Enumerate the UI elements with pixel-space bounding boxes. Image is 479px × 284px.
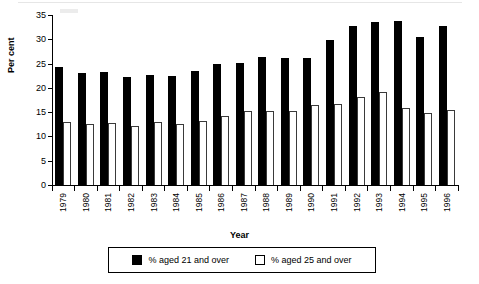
x-tick-label-1980: 1980 bbox=[81, 193, 90, 212]
y-tick-label-35: 35 bbox=[36, 11, 46, 20]
y-tick-label-15: 15 bbox=[36, 108, 46, 117]
bar-1996-series-0 bbox=[439, 26, 447, 185]
legend-label-1: % aged 25 and over bbox=[271, 256, 352, 265]
bar-group bbox=[97, 15, 120, 185]
bar-group bbox=[120, 15, 143, 185]
x-label-cell-1990: 1990 bbox=[300, 193, 323, 227]
bar-group bbox=[413, 15, 436, 185]
x-label-cell-1983: 1983 bbox=[142, 193, 165, 227]
x-label-cell-1985: 1985 bbox=[187, 193, 210, 227]
bar-1984-series-0 bbox=[168, 76, 176, 185]
bar-group bbox=[233, 15, 256, 185]
bar-1979-series-0 bbox=[55, 67, 63, 185]
bar-1981-series-1 bbox=[108, 123, 116, 185]
bar-group bbox=[75, 15, 98, 185]
x-tick-label-1987: 1987 bbox=[239, 193, 248, 212]
bar-1991-series-1 bbox=[334, 104, 342, 185]
x-label-cell-1979: 1979 bbox=[52, 193, 75, 227]
bar-1988-series-1 bbox=[266, 111, 274, 185]
bar-group bbox=[278, 15, 301, 185]
x-tick-label-1983: 1983 bbox=[149, 193, 158, 212]
x-tick-1983 bbox=[142, 186, 165, 192]
x-label-cell-1996: 1996 bbox=[436, 193, 459, 227]
y-tick-label-30: 30 bbox=[36, 35, 46, 44]
bar-1982-series-1 bbox=[131, 126, 139, 185]
bar-1996-series-1 bbox=[447, 110, 455, 185]
cropped-top-artifact bbox=[60, 9, 78, 13]
bar-1992-series-0 bbox=[349, 26, 357, 185]
x-tick-1990 bbox=[300, 186, 323, 192]
x-label-cell-1992: 1992 bbox=[345, 193, 368, 227]
x-label-cell-1986: 1986 bbox=[210, 193, 233, 227]
bar-group bbox=[142, 15, 165, 185]
x-tick-label-1982: 1982 bbox=[126, 193, 135, 212]
x-tick-1991 bbox=[323, 186, 346, 192]
x-tick-1992 bbox=[345, 186, 368, 192]
bar-1983-series-1 bbox=[154, 122, 162, 185]
filled-black-square-icon bbox=[132, 255, 142, 265]
bar-1992-series-1 bbox=[357, 97, 365, 185]
y-tick-label-5: 5 bbox=[41, 156, 46, 165]
bar-group bbox=[187, 15, 210, 185]
bar-group bbox=[52, 15, 75, 185]
legend-item-0: % aged 21 and over bbox=[132, 255, 229, 265]
y-tick-label-20: 20 bbox=[36, 83, 46, 92]
x-tick-1995 bbox=[413, 186, 436, 192]
x-tick-1985 bbox=[187, 186, 210, 192]
x-tick-1984 bbox=[165, 186, 188, 192]
x-tick-1986 bbox=[210, 186, 233, 192]
bar-series-container bbox=[52, 15, 458, 185]
bar-1986-series-0 bbox=[213, 64, 221, 185]
bar-1988-series-0 bbox=[258, 57, 266, 185]
bar-1982-series-0 bbox=[123, 77, 131, 185]
bar-group bbox=[323, 15, 346, 185]
bar-group bbox=[368, 15, 391, 185]
x-tick-label-1995: 1995 bbox=[420, 193, 429, 212]
x-label-cell-1988: 1988 bbox=[255, 193, 278, 227]
open-white-square-icon bbox=[255, 255, 265, 265]
x-tick-label-1994: 1994 bbox=[397, 193, 406, 212]
x-tick-label-1991: 1991 bbox=[330, 193, 339, 212]
bar-1995-series-1 bbox=[424, 113, 432, 185]
x-label-cell-1980: 1980 bbox=[75, 193, 98, 227]
x-label-cell-1981: 1981 bbox=[97, 193, 120, 227]
bar-1993-series-0 bbox=[371, 22, 379, 185]
y-axis-title: Per cent bbox=[6, 37, 16, 73]
bar-group bbox=[210, 15, 233, 185]
x-tick-label-1993: 1993 bbox=[375, 193, 384, 212]
x-tick-label-1988: 1988 bbox=[262, 193, 271, 212]
bar-1994-series-1 bbox=[402, 108, 410, 185]
bar-1991-series-0 bbox=[326, 40, 334, 185]
x-label-cell-1993: 1993 bbox=[368, 193, 391, 227]
y-tick-label-10: 10 bbox=[36, 132, 46, 141]
x-tick-1982 bbox=[120, 186, 143, 192]
bar-1981-series-0 bbox=[100, 72, 108, 185]
bar-group bbox=[436, 15, 459, 185]
bar-group bbox=[165, 15, 188, 185]
bar-1985-series-1 bbox=[199, 121, 207, 185]
x-tick-label-1979: 1979 bbox=[59, 193, 68, 212]
x-tick-label-1984: 1984 bbox=[172, 193, 181, 212]
bar-1989-series-0 bbox=[281, 58, 289, 185]
x-label-cell-1982: 1982 bbox=[120, 193, 143, 227]
bar-group bbox=[300, 15, 323, 185]
x-tick-label-1996: 1996 bbox=[442, 193, 451, 212]
bar-1980-series-0 bbox=[78, 73, 86, 185]
legend-item-1: % aged 25 and over bbox=[255, 255, 352, 265]
bar-1987-series-0 bbox=[236, 63, 244, 185]
bar-1990-series-1 bbox=[311, 105, 319, 185]
x-tick-label-1989: 1989 bbox=[284, 193, 293, 212]
x-label-cell-1984: 1984 bbox=[165, 193, 188, 227]
plot-area: 05101520253035 bbox=[52, 15, 458, 185]
x-label-cell-1987: 1987 bbox=[233, 193, 256, 227]
chart-legend: % aged 21 and over% aged 25 and over bbox=[108, 247, 376, 273]
x-label-cell-1989: 1989 bbox=[278, 193, 301, 227]
bar-1980-series-1 bbox=[86, 124, 94, 185]
bar-1979-series-1 bbox=[63, 122, 71, 185]
x-axis-labels: 1979198019811982198319841985198619871988… bbox=[52, 193, 458, 227]
y-tick-label-25: 25 bbox=[36, 59, 46, 68]
bar-1986-series-1 bbox=[221, 116, 229, 185]
cropped-top-rule bbox=[18, 2, 462, 3]
x-axis-ticks bbox=[52, 186, 458, 192]
x-tick-label-1992: 1992 bbox=[352, 193, 361, 212]
